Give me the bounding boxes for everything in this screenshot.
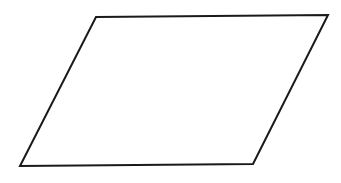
- diagram-canvas: [0, 0, 341, 183]
- parallelogram-shape: [20, 15, 328, 166]
